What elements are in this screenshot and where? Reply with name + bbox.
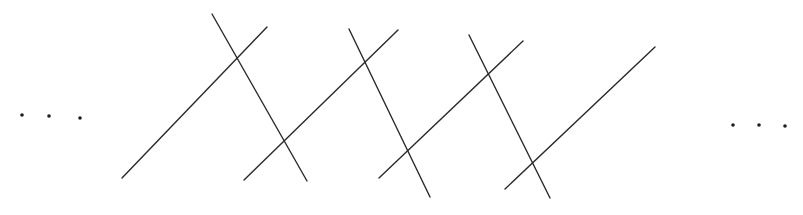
ellipsis-left-dot-1 (20, 113, 24, 117)
ellipsis-left (20, 113, 82, 120)
ellipsis-left-dot-3 (78, 116, 82, 120)
line-ascending-2 (244, 30, 398, 180)
line-descending-2 (349, 29, 430, 197)
line-ascending-4 (505, 47, 655, 189)
line-descending-3 (469, 35, 550, 198)
ellipsis-right-dot-1 (731, 123, 735, 127)
line-crossing-diagram (0, 0, 803, 215)
ellipsis-right (731, 123, 787, 128)
ellipsis-left-dot-2 (47, 114, 51, 118)
ellipsis-right-dot-2 (757, 123, 761, 127)
line-descending-1 (212, 14, 307, 181)
ellipsis-right-dot-3 (783, 124, 787, 128)
line-ascending-3 (379, 41, 523, 178)
line-chain (122, 14, 655, 198)
line-ascending-1 (122, 27, 267, 178)
